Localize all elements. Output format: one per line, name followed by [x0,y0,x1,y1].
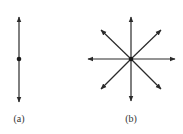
panel-b-drawing [88,17,175,101]
center-dot-icon [17,57,22,62]
diagram-canvas [0,0,183,134]
panel-a-drawing [17,17,22,102]
panel-a-label: (a) [13,113,24,124]
arrow-down-right-icon [131,59,161,89]
center-dot-icon [129,57,134,62]
arrow-down-left-icon [101,59,131,89]
arrow-up-left-icon [101,30,131,59]
arrow-up-right-icon [131,30,161,59]
panel-b-label: (b) [125,113,137,124]
